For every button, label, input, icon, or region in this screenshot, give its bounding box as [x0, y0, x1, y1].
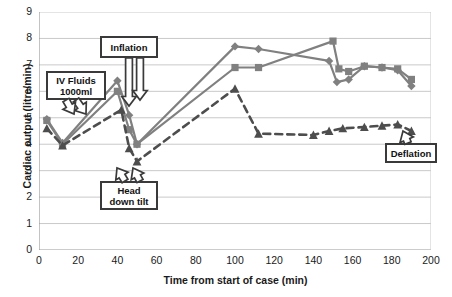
series-square-marker	[345, 68, 352, 75]
x-tick-label: 60	[142, 254, 172, 266]
y-tick-label: 8	[6, 31, 32, 43]
x-tick-label: 120	[259, 254, 289, 266]
y-tick-label: 6	[6, 84, 32, 96]
series-square-marker	[394, 65, 401, 72]
series-square-marker	[408, 76, 415, 83]
x-tick-label: 100	[220, 254, 250, 266]
series-triangle-dashed-marker	[231, 84, 240, 92]
x-tick-label: 20	[63, 254, 93, 266]
y-tick-label: 3	[6, 164, 32, 176]
annotation-label-line1: Inflation	[111, 42, 148, 53]
series-square-marker	[114, 88, 121, 95]
annotation-head-down-tilt: Headdown tilt	[100, 181, 158, 210]
x-axis-title: Time from start of case (min)	[39, 274, 432, 286]
x-tick-label: 200	[416, 254, 446, 266]
x-tick-label: 0	[24, 254, 54, 266]
x-tick-label: 40	[102, 254, 132, 266]
x-tick-label: 80	[181, 254, 211, 266]
series-square-marker	[378, 64, 385, 71]
series-square-marker	[255, 64, 262, 71]
series-diamond-marker	[254, 45, 262, 53]
y-tick-label: 4	[6, 137, 32, 149]
annotation-label-line1: Deflation	[391, 148, 432, 159]
annotation-label-line1: IV Fluids	[56, 75, 96, 86]
annotation-label-line2: 1000ml	[56, 86, 96, 97]
series-triangle-dashed-marker	[125, 144, 134, 152]
series-square-marker	[43, 117, 50, 124]
annotation-deflation: Deflation	[385, 143, 437, 163]
series-square-marker	[133, 141, 140, 148]
series-square-marker	[231, 64, 238, 71]
y-tick-label: 9	[6, 5, 32, 17]
chart-figure: Cardiac output (litre/min) Time from sta…	[0, 0, 452, 297]
y-tick-label: 7	[6, 58, 32, 70]
series-square-marker	[335, 65, 342, 72]
series-diamond-marker	[333, 78, 341, 86]
x-tick-label: 140	[298, 254, 328, 266]
data-series-layer	[39, 12, 431, 250]
annotation-label-line2: down tilt	[109, 196, 148, 207]
plot-area	[39, 12, 431, 250]
annotation-inflation: Inflation	[100, 36, 158, 58]
annotation-iv-fluids: IV Fluids1000ml	[46, 71, 106, 100]
x-tick-label: 160	[338, 254, 368, 266]
series-triangle-dashed-marker	[117, 105, 126, 113]
y-tick-label: 5	[6, 111, 32, 123]
y-tick-label: 1	[6, 217, 32, 229]
y-tick-label: 2	[6, 190, 32, 202]
x-tick-label: 180	[377, 254, 407, 266]
series-square-marker	[329, 37, 336, 44]
series-diamond-marker	[325, 57, 333, 65]
annotation-label-line1: Head	[109, 185, 148, 196]
series-square-marker	[361, 63, 368, 70]
